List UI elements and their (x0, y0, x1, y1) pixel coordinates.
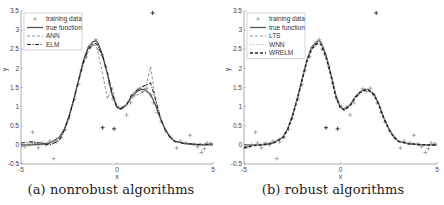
y-tick-label: 1 (238, 103, 242, 110)
training-marker (31, 130, 35, 134)
x-tick-label: -5 (241, 166, 247, 173)
training-marker (398, 146, 402, 150)
series-wrelm (244, 43, 437, 148)
x-tick-label: -5 (18, 166, 24, 173)
caption-robust: (b) robust algorithms (222, 182, 444, 197)
training-marker (348, 113, 352, 117)
outlier-marker (336, 127, 340, 131)
y-tick-label: 3 (238, 26, 242, 33)
outlier-marker (374, 11, 378, 15)
y-tick-label: 0.5 (233, 122, 242, 129)
training-marker (254, 130, 258, 134)
series-elm (21, 44, 213, 145)
series-ann (21, 45, 213, 146)
x-tick-label: 5 (435, 166, 439, 173)
training-marker (196, 145, 200, 149)
y-tick-label: 1.5 (10, 84, 19, 91)
legend: training datatrue functionLTSWNNWRELM (247, 13, 305, 59)
legend-label: true function (269, 24, 305, 31)
x-tick-label: 5 (211, 166, 215, 173)
outlier-marker (101, 126, 105, 130)
y-tick-label: 2.5 (233, 45, 242, 52)
outlier-marker (324, 126, 328, 130)
training-marker (125, 113, 129, 117)
legend-label: true function (46, 24, 82, 31)
panel-nonrobust: -0.500.511.522.533.5-505xytraining datat… (0, 0, 222, 205)
outlier-marker (112, 127, 116, 131)
chart-robust: -0.500.511.522.533.5-505xytraining datat… (222, 0, 444, 182)
x-axis-label: x (339, 173, 343, 180)
training-marker (52, 157, 56, 161)
legend-label: LTS (269, 32, 281, 39)
series-true-function (21, 41, 213, 145)
legend-label: ELM (46, 41, 59, 48)
y-axis-label: y (1, 67, 9, 71)
training-marker (423, 151, 427, 155)
legend-label: training data (46, 15, 82, 23)
caption-nonrobust: (a) nonrobust algorithms (0, 182, 222, 197)
legend-label: WRELM (269, 49, 293, 56)
y-tick-label: 2.5 (10, 45, 19, 52)
panel-robust: -0.500.511.522.533.5-505xytraining datat… (222, 0, 444, 205)
x-tick-label: 0 (115, 166, 119, 173)
training-marker (426, 147, 430, 151)
series-lines (21, 41, 213, 147)
legend-label: training data (269, 15, 305, 23)
chart-nonrobust: -0.500.511.522.533.5-505xytraining datat… (0, 0, 222, 182)
training-marker (36, 146, 40, 150)
y-tick-label: 1 (15, 103, 19, 110)
training-marker (259, 146, 263, 150)
y-tick-label: 0.5 (10, 122, 19, 129)
training-marker (175, 146, 179, 150)
y-tick-label: 0 (15, 141, 19, 148)
y-tick-label: 2 (238, 65, 242, 72)
y-tick-label: 0 (238, 141, 242, 148)
y-tick-label: 3.5 (10, 7, 19, 14)
y-tick-label: 1.5 (233, 84, 242, 91)
outlier-marker (151, 11, 155, 15)
training-marker (202, 147, 206, 151)
legend: training datatrue functionANNELM (24, 13, 82, 50)
x-tick-label: 0 (339, 166, 343, 173)
y-tick-label: 2 (15, 65, 19, 72)
legend-label: ANN (46, 32, 60, 39)
y-axis-label: y (224, 67, 232, 71)
training-marker (412, 133, 416, 137)
legend-label: WNN (269, 41, 285, 48)
training-marker (199, 151, 203, 155)
y-tick-label: 3 (15, 26, 19, 33)
training-marker (275, 157, 279, 161)
training-marker (188, 133, 192, 137)
y-tick-label: 3.5 (233, 7, 242, 14)
x-axis-label: x (115, 173, 119, 180)
